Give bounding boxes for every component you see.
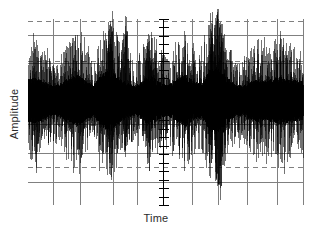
center-axis-with-ticks [159, 19, 169, 206]
x-axis-label: Time [0, 212, 312, 224]
waveform-figure: Amplitude Time [0, 0, 312, 236]
plot-canvas [0, 0, 312, 236]
y-axis-label: Amplitude [8, 74, 20, 154]
